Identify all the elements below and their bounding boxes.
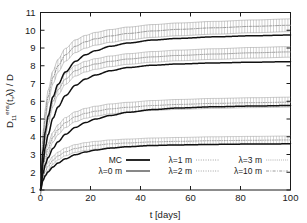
x-tick-label: 20: [85, 192, 96, 203]
y-tick-label: 11: [26, 7, 36, 18]
x-tick-label: 40: [135, 192, 146, 203]
y-axis-title-superscript: ens: [4, 105, 10, 115]
legend-label-0m: λ=0 m: [99, 166, 122, 176]
x-tick-label: 0: [38, 192, 43, 203]
legend-label-3m: λ=3 m: [239, 155, 262, 165]
y-tick-label: 7: [30, 78, 35, 89]
legend-label-2m: λ=2 m: [169, 166, 192, 176]
x-tick-label: 60: [185, 192, 196, 203]
x-tick-label: 80: [235, 192, 246, 203]
x-axis-title: t [days]: [150, 209, 181, 220]
y-axis-title-subscript: 11: [11, 114, 17, 121]
y-tick-label: 9: [30, 42, 35, 53]
y-tick-label: 8: [30, 60, 35, 71]
legend-label-10m: λ=10 m: [234, 166, 262, 176]
y-tick-label: 6: [30, 96, 35, 107]
y-tick-label: 1: [30, 184, 35, 195]
y-axis-title-args: (t,λ): [4, 89, 15, 105]
legend-label-MC: MC: [109, 155, 122, 165]
x-tick-label: 100: [283, 192, 299, 203]
y-axis-title-denominator: / D: [4, 74, 15, 89]
y-tick-label: 10: [25, 25, 36, 36]
dispersion-coefficient-chart: 020406080100 1234567891011 t [days] D11e…: [0, 0, 307, 223]
y-tick-label: 4: [30, 131, 35, 142]
chart-figure: 020406080100 1234567891011 t [days] D11e…: [0, 0, 307, 223]
y-tick-label: 3: [30, 149, 35, 160]
legend-label-1m: λ=1 m: [169, 155, 192, 165]
y-tick-label: 2: [30, 167, 35, 178]
y-tick-label: 5: [30, 113, 35, 124]
